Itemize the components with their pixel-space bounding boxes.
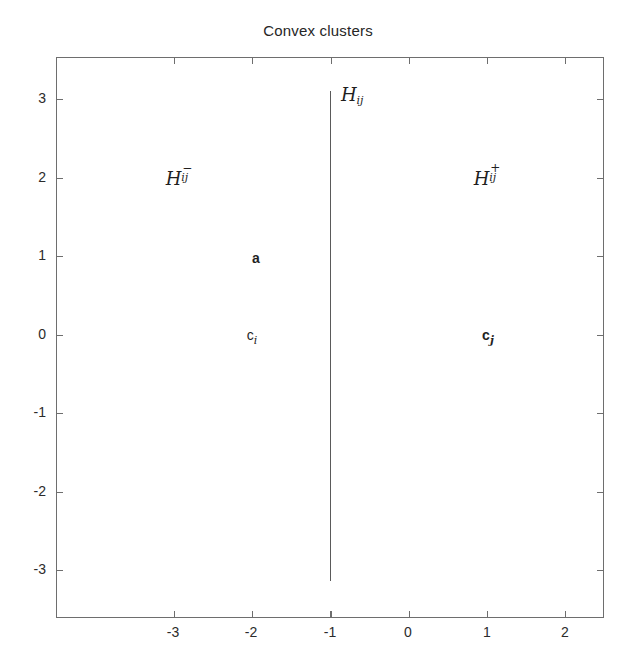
ytick-right-3 [597,99,603,100]
ytick-2 [57,178,63,179]
halfspace-plus-affixes: +ij [489,168,500,185]
yticklabel-neg1: -1 [34,404,46,420]
xtick-top-2 [487,58,488,64]
ytick-right-neg2 [597,492,603,493]
page-bottom-margin [0,648,636,670]
figure-canvas: Convex clusters [0,0,636,670]
halfspace-plus-base: H [474,168,490,189]
xticklabel-neg3: -3 [167,624,179,640]
xtick-top-1 [409,58,410,64]
xtick-0 [331,611,332,617]
yticklabel-1: 1 [38,247,46,263]
ytick-1 [57,256,63,257]
xtick-1 [409,611,410,617]
xticklabel-2: 2 [561,624,569,640]
ytick-neg2 [57,492,63,493]
xticklabel-neg1: -1 [324,624,336,640]
xtick-2 [487,611,488,617]
ytick-neg1 [57,413,63,414]
xticklabel-1: 1 [483,624,491,640]
xticklabel-neg2: -2 [245,624,257,640]
ytick-right-neg1 [597,413,603,414]
page-title: Convex clusters [0,22,636,39]
ytick-right-neg3 [597,570,603,571]
halfspace-minus-subscript: ij [181,172,188,183]
centroid-i-base: c [247,327,254,343]
hyperplane-base: H [341,84,357,105]
xtick-3 [565,611,566,617]
centroid-j-base: c [482,327,490,343]
annotation-hyperplane: Hij [341,86,363,106]
hyperplane-subscript: ij [357,94,364,107]
yticklabel-neg2: -2 [34,483,46,499]
point-a-base: a [252,250,260,266]
halfspace-minus-affixes: −ij [181,168,192,185]
ytick-0 [57,335,63,336]
annotation-point-a: a [252,251,260,265]
halfspace-minus-base: H [166,168,182,189]
yticklabel-2: 2 [38,169,46,185]
centroid-j-subscript: j [490,334,494,347]
xtick-top-neg3 [174,58,175,64]
ytick-right-1 [597,256,603,257]
halfspace-plus-subscript: ij [489,172,496,183]
separating-hyperplane-line [330,91,331,581]
xtick-top-3 [565,58,566,64]
xtick-top-neg1 [331,58,332,64]
yticklabel-0: 0 [38,326,46,342]
yticklabel-neg3: -3 [34,561,46,577]
xtick-top-neg2 [252,58,253,64]
centroid-i-subscript: i [254,334,258,347]
xtick-neg2 [252,611,253,617]
annotation-centroid-ci: ci [247,328,258,345]
annotation-halfspace-minus: H−ij [166,168,193,188]
plot-area: Hij H−ij H+ij a ci cj [56,57,604,618]
yticklabel-3: 3 [38,90,46,106]
annotation-halfspace-plus: H+ij [474,168,501,188]
ytick-neg3 [57,570,63,571]
xticklabel-0: 0 [404,624,412,640]
ytick-right-2 [597,178,603,179]
ytick-3 [57,99,63,100]
annotation-centroid-cj: cj [482,328,494,345]
ytick-right-0 [597,335,603,336]
xtick-neg3 [174,611,175,617]
